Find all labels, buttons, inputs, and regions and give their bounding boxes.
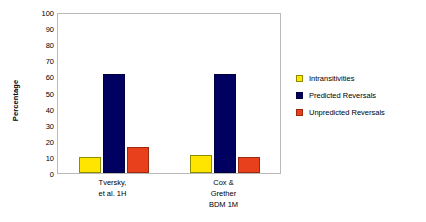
- x-axis-category-label-line: Tversky,: [57, 177, 168, 188]
- legend-label: Predicted Reversals: [309, 91, 376, 100]
- bar-chart: Percentage 1009080706050403020100 Tversk…: [0, 0, 426, 222]
- y-axis-title-text: Percentage: [12, 79, 21, 120]
- legend-label: Unpredicted Reversals: [309, 108, 385, 117]
- y-axis-tick-label: 0: [26, 170, 54, 179]
- legend-item[interactable]: Intransitivities: [296, 70, 424, 87]
- x-axis-category-labels: Tversky,et al. 1HCox &GretherBDM 1M: [57, 177, 281, 222]
- y-axis-tick-label: 60: [26, 73, 54, 82]
- bar[interactable]: [238, 157, 260, 173]
- legend-item[interactable]: Unpredicted Reversals: [296, 104, 424, 121]
- y-axis-tick-label: 40: [26, 105, 54, 114]
- y-axis-title: Percentage: [8, 58, 24, 142]
- x-axis-category-label-line: et al. 1H: [57, 188, 168, 199]
- y-axis-tick-label: 30: [26, 121, 54, 130]
- y-axis-tick-label: 50: [26, 89, 54, 98]
- legend-label: Intransitivities: [309, 74, 354, 83]
- plot-inner: [58, 14, 280, 173]
- y-axis-tick-labels: 1009080706050403020100: [26, 9, 54, 178]
- bar-group: [58, 14, 169, 173]
- y-axis-tick-label: 70: [26, 57, 54, 66]
- x-axis-category-label-line: Grether: [168, 188, 279, 199]
- bar[interactable]: [103, 74, 125, 173]
- bar[interactable]: [79, 157, 101, 173]
- y-axis-tick-label: 80: [26, 41, 54, 50]
- y-axis-tick-label: 100: [26, 9, 54, 18]
- y-axis-tick-label: 20: [26, 137, 54, 146]
- x-axis-category-label-line: BDM 1M: [168, 199, 279, 210]
- x-axis-category-label-line: Cox &: [168, 177, 279, 188]
- bar[interactable]: [127, 147, 149, 173]
- x-axis-category-label: Tversky,et al. 1H: [57, 177, 168, 199]
- legend-swatch-icon: [296, 75, 303, 82]
- legend: IntransitivitiesPredicted ReversalsUnpre…: [296, 70, 424, 121]
- legend-swatch-icon: [296, 109, 303, 116]
- y-axis-tick-label: 90: [26, 25, 54, 34]
- legend-item[interactable]: Predicted Reversals: [296, 87, 424, 104]
- bar[interactable]: [190, 155, 212, 173]
- legend-swatch-icon: [296, 92, 303, 99]
- bar-group: [169, 14, 280, 173]
- plot-area: [57, 13, 281, 174]
- bar[interactable]: [214, 74, 236, 173]
- y-axis-tick-label: 10: [26, 153, 54, 162]
- x-axis-category-label: Cox &GretherBDM 1M: [168, 177, 279, 210]
